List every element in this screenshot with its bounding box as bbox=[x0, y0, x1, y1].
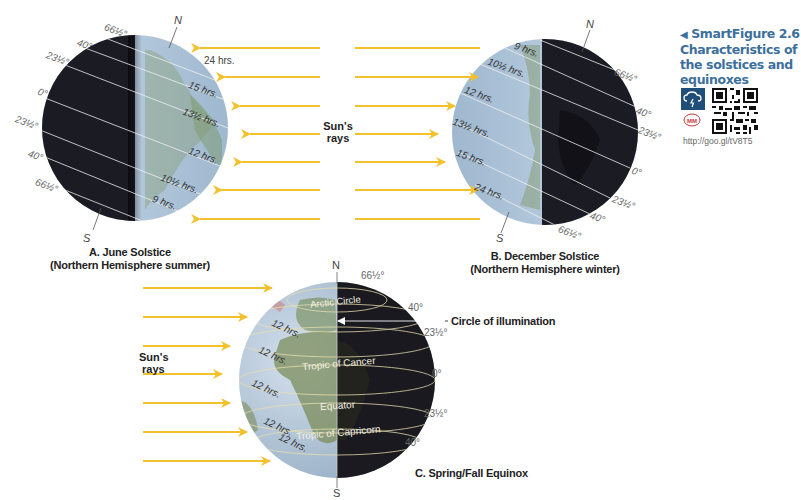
equinox-lat-label: 23½° bbox=[424, 408, 447, 419]
equinox-south-label: S bbox=[333, 487, 340, 499]
rays-label-line2: rays bbox=[313, 132, 363, 144]
december-caption-subtitle: (Northern Hemisphere winter) bbox=[440, 263, 650, 276]
december-north-label: N bbox=[586, 18, 594, 30]
rays-label-line1: Sun's bbox=[313, 120, 363, 132]
cloud-lightning-icon[interactable] bbox=[681, 88, 705, 110]
smartfigure-url[interactable]: http://goo.gl/tV8T5 bbox=[683, 136, 752, 146]
triangle-left-icon: ◀ bbox=[680, 29, 687, 40]
rays-label-line1: Sun's bbox=[139, 351, 189, 363]
equinox-lat-label: 40° bbox=[405, 437, 420, 448]
december-south-label: S bbox=[496, 232, 503, 244]
december-caption-title: B. December Solstice bbox=[440, 250, 650, 263]
figure-stage: N S 66½° 40° 23½° 0° 23½° 40° 66½° 24 hr… bbox=[0, 0, 801, 500]
equinox-lat-label: 66½° bbox=[361, 270, 384, 281]
qr-code[interactable] bbox=[712, 88, 758, 134]
smartfigure-heading[interactable]: ◀ SmartFigure 2.6 bbox=[680, 26, 801, 42]
smartfigure-title-block: ◀ SmartFigure 2.6 Characteristics of the… bbox=[680, 26, 801, 87]
equinox-lat-label: 0° bbox=[432, 368, 442, 379]
rays-label-line2: rays bbox=[139, 363, 189, 375]
bottom-rays-label: Sun's rays bbox=[139, 351, 189, 375]
june-caption: A. June Solstice (Northern Hemisphere su… bbox=[30, 246, 230, 272]
equinox-north-label: N bbox=[332, 259, 340, 271]
circle-of-illumination-label: Circle of illumination bbox=[451, 315, 555, 327]
figure-title-line: equinoxes bbox=[680, 72, 801, 87]
figure-title-line: Characteristics of bbox=[680, 42, 801, 57]
june-south-label: S bbox=[83, 232, 90, 244]
december-caption: B. December Solstice (Northern Hemispher… bbox=[440, 250, 650, 276]
june-caption-subtitle: (Northern Hemisphere summer) bbox=[30, 259, 230, 272]
june-caption-title: A. June Solstice bbox=[30, 246, 230, 259]
svg-text:MM: MM bbox=[687, 118, 697, 124]
top-rays-label: Sun's rays bbox=[313, 120, 363, 144]
equinox-lat-label: 23½° bbox=[424, 327, 447, 338]
figure-title-line: the solstices and bbox=[680, 57, 801, 72]
mastering-meteorology-icon[interactable]: MM bbox=[683, 113, 701, 131]
june-day-length: 24 hrs. bbox=[204, 55, 235, 66]
equinox-caption: C. Spring/Fall Equinox bbox=[415, 467, 528, 480]
smartfigure-label: SmartFigure 2.6 bbox=[691, 26, 799, 41]
june-north-label: N bbox=[174, 14, 182, 26]
equinox-lat-label: 40° bbox=[408, 302, 423, 313]
